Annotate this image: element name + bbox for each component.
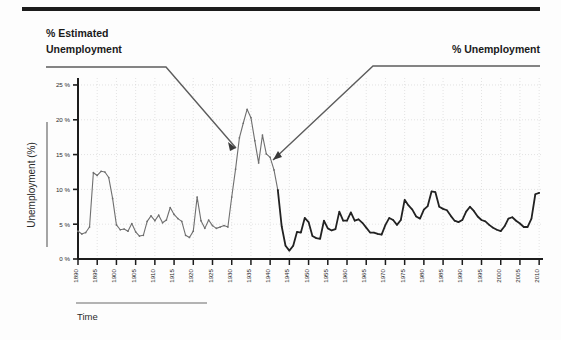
data-point bbox=[100, 170, 102, 172]
data-point bbox=[215, 228, 217, 230]
y-tick-label: 25 % bbox=[56, 81, 71, 88]
data-point bbox=[242, 122, 244, 124]
y-tick-label: 20 % bbox=[56, 116, 71, 123]
y-axis-title: Unemployment (%) bbox=[26, 142, 37, 228]
data-point bbox=[531, 218, 532, 219]
data-point bbox=[408, 205, 409, 206]
data-point bbox=[316, 237, 317, 238]
data-point bbox=[415, 216, 416, 217]
data-point bbox=[273, 169, 275, 171]
data-point bbox=[89, 226, 91, 228]
data-point bbox=[454, 220, 455, 221]
unemployment-figure: 0 %5 %10 %15 %20 %25 % 18901895190019051… bbox=[0, 0, 561, 340]
data-point bbox=[538, 192, 539, 193]
data-point bbox=[442, 208, 443, 209]
x-tick-label: 1965 bbox=[360, 268, 367, 282]
data-point bbox=[269, 157, 271, 159]
data-point bbox=[500, 230, 501, 231]
data-point bbox=[235, 168, 237, 170]
data-point bbox=[323, 220, 324, 221]
x-tick-label: 2000 bbox=[495, 268, 502, 282]
data-point bbox=[173, 214, 175, 216]
data-point bbox=[192, 230, 194, 232]
data-point bbox=[431, 191, 432, 192]
data-point bbox=[396, 224, 397, 225]
data-point bbox=[462, 219, 463, 220]
data-point bbox=[504, 226, 505, 227]
data-point bbox=[281, 226, 282, 227]
data-point bbox=[439, 206, 440, 207]
data-point bbox=[404, 199, 405, 200]
data-point bbox=[358, 219, 359, 220]
data-point bbox=[189, 237, 191, 239]
data-point bbox=[435, 191, 436, 192]
data-point bbox=[239, 137, 241, 139]
x-tick-label: 1950 bbox=[303, 268, 310, 282]
data-point bbox=[81, 233, 83, 235]
data-point bbox=[446, 210, 447, 211]
data-point bbox=[104, 171, 106, 173]
data-point bbox=[465, 211, 466, 212]
x-tick-label: 1905 bbox=[130, 268, 137, 282]
data-point bbox=[366, 227, 367, 228]
x-tick-label: 1890 bbox=[72, 268, 79, 282]
data-point bbox=[123, 228, 125, 230]
data-point bbox=[293, 245, 294, 246]
data-point bbox=[227, 226, 229, 228]
data-point bbox=[400, 219, 401, 220]
data-point bbox=[412, 209, 413, 210]
x-tick-label: 1915 bbox=[168, 268, 175, 282]
data-point bbox=[150, 215, 152, 217]
data-point bbox=[258, 162, 260, 164]
chart-canvas: 0 %5 %10 %15 %20 %25 % 18901895190019051… bbox=[0, 0, 561, 340]
y-tick-label: 0 % bbox=[59, 255, 70, 262]
data-point bbox=[131, 223, 133, 225]
data-point bbox=[246, 108, 248, 110]
data-point bbox=[119, 229, 121, 231]
data-point bbox=[385, 224, 386, 225]
data-point bbox=[223, 225, 225, 227]
data-point bbox=[523, 226, 524, 227]
x-tick-label: 1920 bbox=[187, 268, 194, 282]
data-point bbox=[308, 221, 309, 222]
data-point bbox=[389, 217, 390, 218]
data-point bbox=[146, 221, 148, 223]
x-tick-label: 2005 bbox=[514, 268, 521, 282]
x-tick-label: 1955 bbox=[322, 268, 329, 282]
y-tick-label: 5 % bbox=[59, 221, 70, 228]
data-point bbox=[250, 117, 252, 119]
data-point bbox=[469, 206, 470, 207]
data-point bbox=[319, 238, 320, 239]
data-point bbox=[327, 228, 328, 229]
data-point bbox=[85, 232, 87, 234]
data-point bbox=[158, 214, 160, 216]
x-tick-label: 2010 bbox=[533, 268, 540, 282]
data-point bbox=[392, 219, 393, 220]
x-axis-title: Time bbox=[77, 311, 98, 322]
data-point bbox=[535, 194, 536, 195]
data-point bbox=[350, 212, 351, 213]
data-point bbox=[377, 233, 378, 234]
data-point bbox=[108, 177, 110, 179]
data-point bbox=[93, 172, 95, 174]
data-point bbox=[200, 220, 202, 222]
data-point bbox=[212, 225, 214, 227]
data-point bbox=[342, 220, 343, 221]
x-tick-label: 1960 bbox=[341, 268, 348, 282]
data-point bbox=[135, 231, 137, 233]
data-point bbox=[277, 189, 278, 190]
data-point bbox=[300, 232, 301, 233]
x-tick-label: 1945 bbox=[283, 268, 290, 282]
data-point bbox=[419, 218, 420, 219]
data-point bbox=[496, 229, 497, 230]
data-point bbox=[512, 217, 513, 218]
x-tick-label: 1925 bbox=[207, 268, 214, 282]
data-point bbox=[362, 222, 363, 223]
data-point bbox=[181, 221, 183, 223]
data-point bbox=[262, 134, 264, 136]
data-point bbox=[488, 224, 489, 225]
x-tick-label: 1995 bbox=[476, 268, 483, 282]
estimated-unemployment-label-line2: Unemployment bbox=[46, 43, 122, 55]
x-tick-label: 1940 bbox=[264, 268, 271, 282]
data-point bbox=[139, 235, 141, 237]
